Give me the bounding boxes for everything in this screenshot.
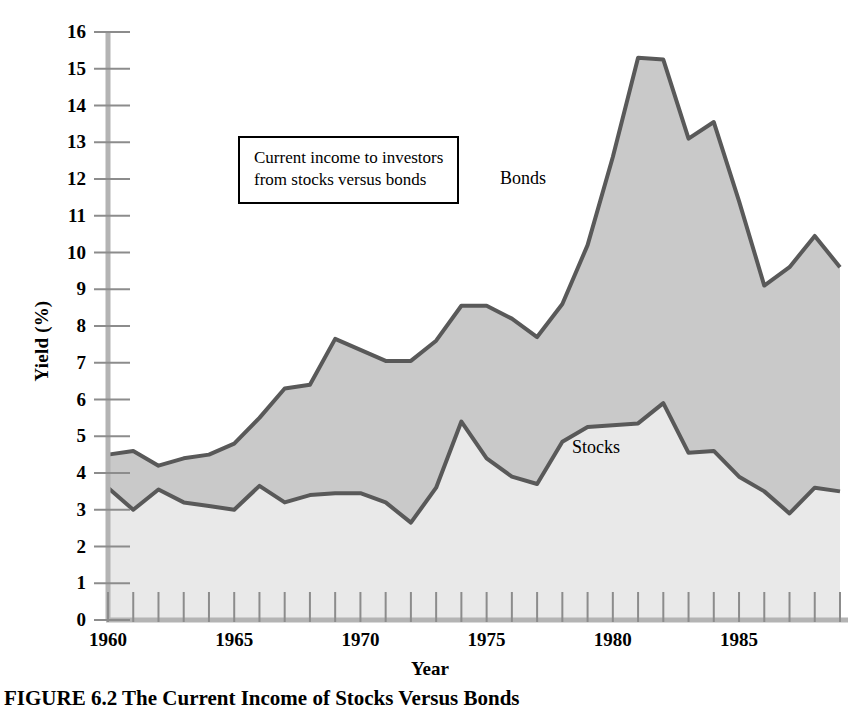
y-tick-label: 0 [46, 610, 86, 629]
x-tick-label: 1965 [194, 630, 274, 649]
y-tick-label: 8 [46, 316, 86, 335]
annotation-textbox: Current income to investors from stocks … [238, 136, 459, 204]
figure-caption: FIGURE 6.2 The Current Income of Stocks … [0, 686, 860, 707]
y-tick-label: 9 [46, 279, 86, 298]
figure-container: Yield (%) Year 012345678910111213141516 … [0, 0, 860, 707]
x-tick-label: 1980 [573, 630, 653, 649]
y-tick-label: 1 [46, 573, 86, 592]
x-axis-title: Year [0, 658, 860, 680]
y-axis-title: Yield (%) [31, 281, 53, 401]
x-tick-label: 1970 [320, 630, 400, 649]
y-tick-label: 7 [46, 353, 86, 372]
y-tick-label: 14 [46, 96, 86, 115]
x-tick-label: 1960 [68, 630, 148, 649]
y-tick-label: 4 [46, 463, 86, 482]
y-tick-label: 13 [46, 132, 86, 151]
y-tick-label: 15 [46, 59, 86, 78]
series-label-bonds: Bonds [500, 168, 546, 189]
x-tick-label: 1985 [699, 630, 779, 649]
y-tick-label: 5 [46, 426, 86, 445]
chart-canvas [0, 0, 860, 707]
y-tick-label: 2 [46, 537, 86, 556]
y-tick-label: 16 [46, 22, 86, 41]
y-tick-label: 12 [46, 169, 86, 188]
y-tick-label: 3 [46, 500, 86, 519]
series-label-stocks: Stocks [572, 437, 620, 458]
y-tick-label: 10 [46, 243, 86, 262]
y-tick-label: 6 [46, 390, 86, 409]
y-tick-label: 11 [46, 206, 86, 225]
x-tick-label: 1975 [447, 630, 527, 649]
